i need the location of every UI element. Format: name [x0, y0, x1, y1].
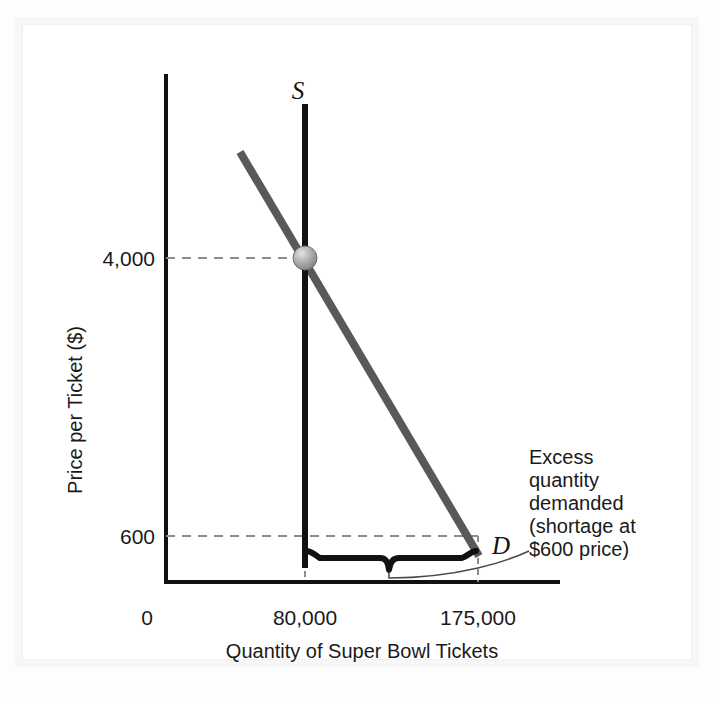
- annotation-line-5: $600 price): [529, 538, 629, 560]
- x-axis-tick-labels: 0 80,000 175,000: [141, 606, 516, 629]
- equilibrium-point-marker: [293, 246, 317, 270]
- chart-axes: [164, 74, 560, 583]
- y-axis-tick-labels: 4,000 600: [102, 247, 155, 548]
- x-tick-label-0: 0: [141, 606, 153, 629]
- y-tick-label-4000: 4,000: [102, 247, 155, 270]
- x-tick-label-175000: 175,000: [440, 606, 516, 629]
- demand-curve-label: D: [491, 532, 510, 559]
- annotation-line-3: demanded: [529, 492, 624, 514]
- annotation-line-4: (shortage at: [529, 515, 636, 537]
- y-axis-title: Price per Ticket ($): [64, 326, 86, 494]
- excess-quantity-brace: [306, 551, 476, 570]
- supply-demand-chart: S D 4,000 600 0 80,000 175,000 Price per…: [0, 0, 713, 702]
- supply-curve-label: S: [292, 77, 305, 104]
- annotation-line-1: Excess: [529, 446, 593, 468]
- annotation-line-2: quantity: [529, 469, 599, 491]
- x-tick-label-80000: 80,000: [273, 606, 337, 629]
- excess-quantity-annotation: Excess quantity demanded (shortage at $6…: [529, 446, 636, 560]
- reference-lines: [166, 258, 478, 582]
- x-axis-title: Quantity of Super Bowl Tickets: [226, 640, 498, 662]
- figure-page: S D 4,000 600 0 80,000 175,000 Price per…: [0, 0, 713, 702]
- demand-curve: [240, 152, 479, 556]
- y-tick-label-600: 600: [120, 525, 155, 548]
